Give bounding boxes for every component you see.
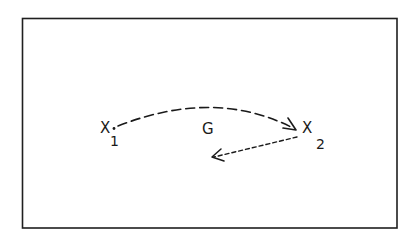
node-x1-label: X <box>100 119 110 137</box>
edge-label-g: G <box>202 120 214 138</box>
diagram-canvas: X 1 G X 2 <box>0 0 419 239</box>
node-x2-label: X <box>302 119 312 137</box>
node-x2-subscript: 2 <box>316 136 325 152</box>
node-x1-point <box>113 127 116 130</box>
node-x1-subscript: 1 <box>110 133 119 149</box>
node-x1: X 1 <box>100 119 119 149</box>
node-x2: X 2 <box>302 119 325 152</box>
edge-return-arrow <box>214 137 297 157</box>
